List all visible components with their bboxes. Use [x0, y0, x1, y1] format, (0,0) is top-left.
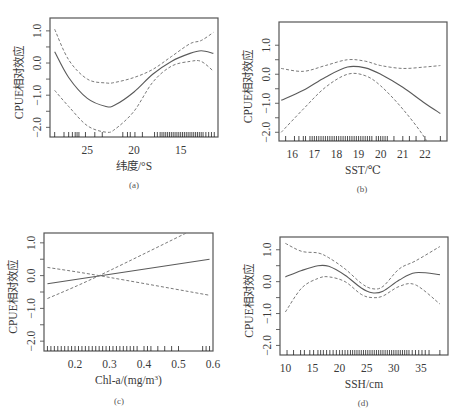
- x-tick-label: 20: [334, 362, 346, 374]
- figure-canvas: −2.0−1.00.01.0CPUE相对效应252015纬度/°S(a)−2.0…: [0, 0, 462, 417]
- x-axis-label: Chl-a/(mg/m3): [95, 374, 162, 387]
- panel-caption: (c): [114, 396, 124, 406]
- y-tick-label: 1.0: [31, 23, 43, 38]
- x-tick-label: 0.4: [137, 358, 152, 370]
- y-axis-label: CPUE相对效应: [12, 46, 25, 119]
- y-tick-label: 0.0: [25, 268, 37, 283]
- rug-marks: [286, 136, 441, 141]
- x-tick-label: 30: [388, 362, 400, 374]
- x-axis-label: SSH/cm: [345, 378, 383, 390]
- x-tick-label: 35: [415, 362, 427, 374]
- x-tick-label: 0.5: [171, 358, 186, 370]
- y-tick-label: 1.0: [261, 242, 273, 257]
- x-tick-label: 18: [331, 148, 343, 160]
- y-tick-label: −1.0: [31, 85, 43, 106]
- y-tick-label: −1.0: [25, 298, 37, 319]
- plot-frame: [44, 233, 213, 351]
- x-tick-label: 0.3: [102, 358, 117, 370]
- x-tick-label: 20: [128, 144, 140, 156]
- x-tick-label: 17: [309, 148, 321, 160]
- x-tick-label: 15: [175, 144, 187, 156]
- y-tick-label: 0.0: [31, 56, 43, 71]
- y-tick-label: −1.0: [260, 93, 272, 114]
- panel-caption: (b): [357, 184, 368, 194]
- panel-caption: (a): [129, 180, 139, 190]
- chart-panel-chl-a: −2.0−1.00.01.0CPUE相对效应0.20.30.40.50.6Chl…: [6, 222, 220, 406]
- fitted-curve: [281, 66, 440, 113]
- x-tick-label: 0.2: [68, 358, 83, 370]
- rug-marks: [47, 346, 209, 351]
- x-tick-label: 22: [419, 148, 431, 160]
- y-axis-label: CPUE相对效应: [241, 50, 254, 123]
- rug-marks: [287, 350, 440, 355]
- y-tick-label: −2.0: [31, 117, 43, 138]
- y-tick-label: 1.0: [260, 38, 272, 53]
- confidence-band-upper: [281, 60, 440, 72]
- y-tick-label: −1.0: [261, 303, 273, 324]
- y-axis-label: CPUE相对效应: [6, 260, 19, 333]
- chart-panel-latitude: −2.0−1.00.01.0CPUE相对效应252015纬度/°S(a): [12, 18, 218, 190]
- y-axis-label: CPUE相对效应: [242, 264, 255, 337]
- panel-caption: (d): [358, 398, 369, 408]
- x-tick-label: 25: [361, 362, 373, 374]
- chart-panel-sst: −2.0−1.00.01.0CPUE相对效应16171819202122SST/…: [241, 22, 447, 194]
- fitted-curve: [47, 259, 209, 284]
- x-tick-label: 15: [307, 362, 319, 374]
- fitted-curve: [285, 265, 439, 293]
- plot-frame: [50, 18, 218, 137]
- y-tick-label: −2.0: [25, 330, 37, 351]
- y-tick-label: 0.0: [260, 67, 272, 82]
- x-tick-label: 25: [82, 144, 94, 156]
- x-axis-label: 纬度/°S: [116, 159, 152, 172]
- confidence-band-upper: [55, 29, 214, 83]
- confidence-band-lower: [55, 60, 214, 132]
- y-tick-label: 1.0: [25, 235, 37, 250]
- x-tick-label: 20: [375, 148, 387, 160]
- x-tick-label: 0.6: [206, 358, 221, 370]
- x-tick-label: 16: [287, 148, 299, 160]
- x-axis-label: SST/℃: [345, 164, 381, 176]
- chart-panel-ssh: −2.0−1.00.01.0CPUE相对效应101520253035SSH/cm…: [242, 237, 448, 408]
- fitted-curve: [55, 51, 214, 107]
- y-tick-label: −2.0: [261, 335, 273, 356]
- confidence-band-lower: [285, 277, 439, 312]
- x-tick-label: 19: [353, 148, 365, 160]
- rug-marks: [55, 132, 215, 137]
- y-tick-label: −2.0: [260, 122, 272, 143]
- plot-frame: [280, 237, 448, 355]
- y-tick-label: 0.0: [261, 274, 273, 289]
- x-tick-label: 10: [280, 362, 292, 374]
- plot-frame: [279, 22, 447, 141]
- x-tick-label: 21: [397, 148, 409, 160]
